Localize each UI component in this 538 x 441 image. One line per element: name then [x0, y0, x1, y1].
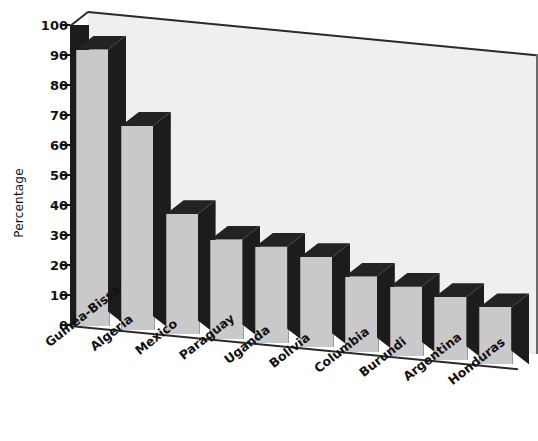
back-wall-right-edge [536, 54, 538, 354]
bar-front-face [76, 50, 110, 326]
bar-mexico[interactable] [166, 200, 198, 334]
bar-algeria[interactable] [121, 112, 153, 330]
bar-guinea-bissau[interactable] [76, 36, 108, 326]
bar-front-face [121, 126, 155, 330]
